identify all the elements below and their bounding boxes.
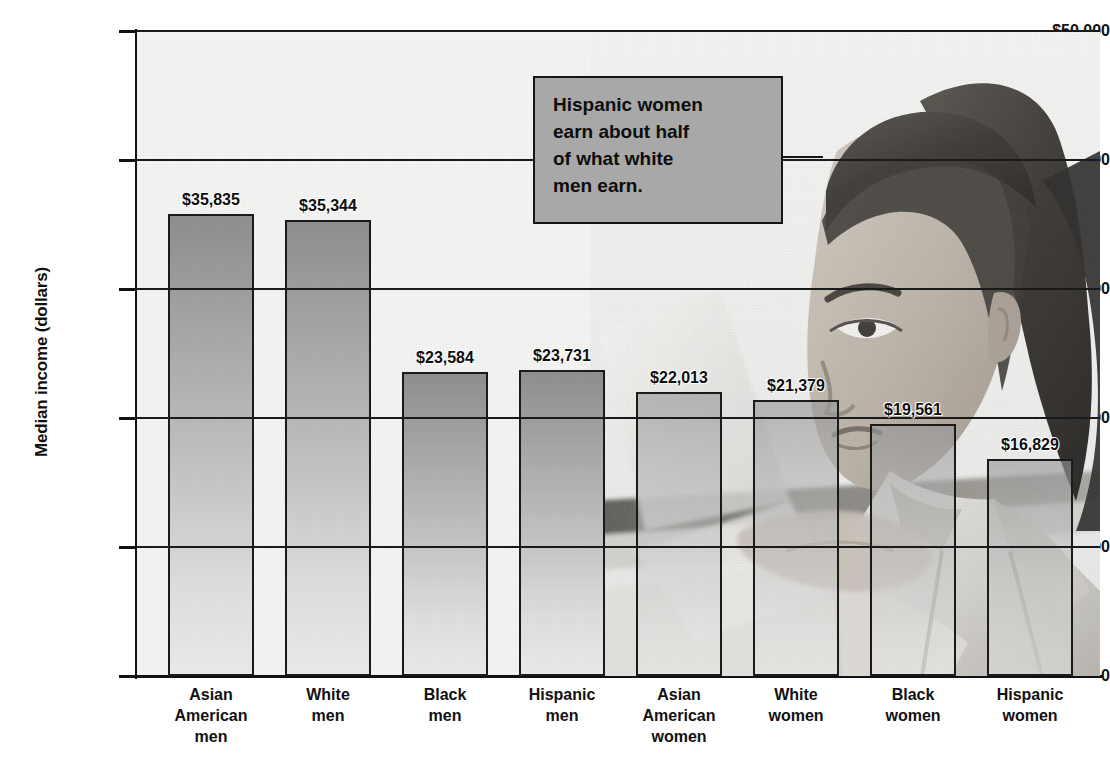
x-label-asian-american-men: Asian American men <box>175 684 248 747</box>
x-label-line-1: White <box>306 684 350 705</box>
callout-line-3: of what white <box>553 146 765 173</box>
tick-mark-40000 <box>119 159 135 162</box>
tick-mark-30000 <box>119 288 135 291</box>
x-label-line-1: Asian <box>175 684 248 705</box>
callout-line-2: earn about half <box>553 119 765 146</box>
x-label-white-men: White men <box>306 684 350 726</box>
cropped-title-strip <box>0 0 1110 14</box>
x-label-line-2: men <box>306 705 350 726</box>
bar-value-hispanic-men: $23,731 <box>533 347 591 365</box>
x-label-line-1: Hispanic <box>529 684 596 705</box>
x-label-line-2: women <box>997 705 1064 726</box>
chart-page: Median income (dollars) <box>0 0 1110 768</box>
gridline-50000 <box>136 30 1100 32</box>
x-label-asian-american-women: Asian American women <box>643 684 716 747</box>
x-label-line-1: Black <box>424 684 467 705</box>
y-axis-line <box>135 29 137 679</box>
x-label-line-3: women <box>643 726 716 747</box>
x-label-line-1: White <box>768 684 823 705</box>
x-label-line-2: men <box>424 705 467 726</box>
tick-mark-0 <box>119 675 135 678</box>
x-label-line-2: women <box>768 705 823 726</box>
gridline-10000 <box>136 546 1100 548</box>
bar-value-hispanic-women: $16,829 <box>1001 436 1059 454</box>
bar-value-asian-american-men: $35,835 <box>182 191 240 209</box>
bar-black-women <box>870 424 956 676</box>
callout-leader-line <box>783 156 823 158</box>
bar-white-women <box>753 400 839 676</box>
x-label-black-women: Black women <box>885 684 940 726</box>
bar-value-white-women: $21,379 <box>767 377 825 395</box>
x-label-line-3: men <box>175 726 248 747</box>
bar-value-black-women: $19,561 <box>884 401 942 419</box>
tick-mark-50000 <box>119 30 135 33</box>
gridline-30000 <box>136 288 1100 290</box>
bar-hispanic-men <box>519 370 605 676</box>
bar-value-white-men: $35,344 <box>299 197 357 215</box>
gridline-20000 <box>136 417 1100 419</box>
bar-value-black-men: $23,584 <box>416 349 474 367</box>
x-label-hispanic-men: Hispanic men <box>529 684 596 726</box>
bar-asian-american-women <box>636 392 722 676</box>
tick-mark-10000 <box>119 546 135 549</box>
x-label-line-1: Black <box>885 684 940 705</box>
x-label-line-2: American <box>643 705 716 726</box>
tick-mark-20000 <box>119 417 135 420</box>
x-label-white-women: White women <box>768 684 823 726</box>
x-label-line-2: men <box>529 705 596 726</box>
x-label-line-1: Asian <box>643 684 716 705</box>
callout-annotation: Hispanic women earn about half of what w… <box>533 76 783 224</box>
x-label-line-2: women <box>885 705 940 726</box>
callout-line-4: men earn. <box>553 173 765 200</box>
bar-hispanic-women <box>987 459 1073 676</box>
x-label-line-2: American <box>175 705 248 726</box>
bar-asian-american-men <box>168 214 254 676</box>
x-label-hispanic-women: Hispanic women <box>997 684 1064 726</box>
y-axis-title: Median income (dollars) <box>32 152 52 572</box>
x-label-line-1: Hispanic <box>997 684 1064 705</box>
bar-value-asian-american-women: $22,013 <box>650 369 708 387</box>
callout-line-1: Hispanic women <box>553 92 765 119</box>
x-label-black-men: Black men <box>424 684 467 726</box>
